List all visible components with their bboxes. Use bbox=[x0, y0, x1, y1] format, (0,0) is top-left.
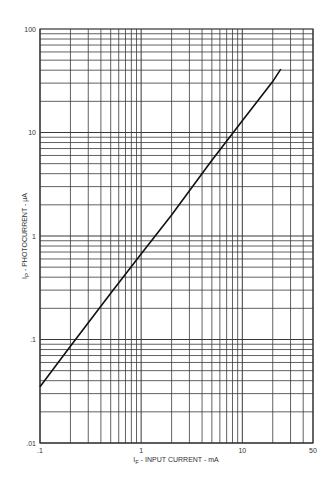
y-axis-label: IP - PHOTOCURRENT - µA bbox=[21, 193, 30, 279]
y-tick-label: .1 bbox=[30, 336, 36, 343]
x-tick-label: .1 bbox=[37, 447, 43, 454]
grid-lines bbox=[40, 29, 313, 443]
y-tick-label: 1 bbox=[32, 233, 36, 240]
x-axis-label: IF - INPUT CURRENT - mA bbox=[133, 456, 219, 465]
x-tick-label: 50 bbox=[309, 447, 317, 454]
chart: .111050 100101.1.01 IF - INPUT CURRENT -… bbox=[0, 0, 332, 480]
x-tick-label: 10 bbox=[238, 447, 246, 454]
y-tick-label: .01 bbox=[26, 440, 36, 447]
x-tick-label: 1 bbox=[139, 447, 143, 454]
y-tick-label: 100 bbox=[24, 26, 36, 33]
x-axis-ticks: .111050 bbox=[37, 447, 317, 454]
y-tick-label: 10 bbox=[28, 129, 36, 136]
